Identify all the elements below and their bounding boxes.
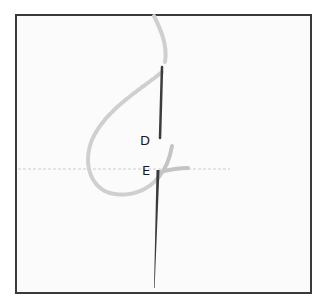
stitch-illustration (0, 0, 317, 300)
thread-knot (158, 146, 188, 178)
needle-lower (154, 170, 160, 288)
diagram-canvas: D E (0, 0, 317, 300)
point-e-label: E (142, 164, 150, 177)
thread-loop (88, 72, 162, 195)
needle-upper (160, 67, 162, 138)
point-d-label: D (140, 134, 150, 147)
thread-upper (154, 16, 166, 62)
